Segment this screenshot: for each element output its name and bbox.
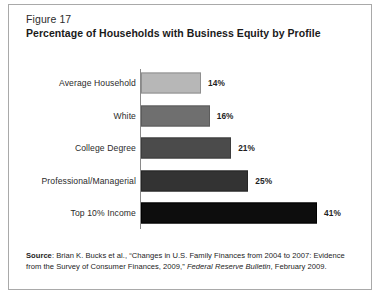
source-publication: Federal Reserve Bulletin <box>187 262 271 271</box>
figure-number: Figure 17 <box>26 13 71 25</box>
figure-frame: Figure 17 Percentage of Households with … <box>8 4 372 290</box>
bar-chart: Average Household14%White16%College Degr… <box>9 49 371 243</box>
bar-category-label: Top 10% Income <box>71 208 136 218</box>
bar-value-label: 41% <box>324 208 341 218</box>
bar-row: Top 10% Income41% <box>9 197 371 229</box>
bar-value-label: 25% <box>255 176 272 186</box>
bar <box>141 73 201 94</box>
bar-row: White16% <box>9 100 371 132</box>
bar-row: Average Household14% <box>9 67 371 99</box>
source-label: Source <box>26 251 52 260</box>
figure-title: Percentage of Households with Business E… <box>26 27 321 39</box>
bar-row: College Degree21% <box>9 132 371 164</box>
bar <box>141 105 210 126</box>
bar-row: Professional/Managerial25% <box>9 165 371 197</box>
source-note: Source: Brian K. Bucks et al., “Changes … <box>26 250 362 273</box>
bar-value-label: 21% <box>238 143 255 153</box>
bar <box>141 170 248 191</box>
bar-value-label: 14% <box>208 78 225 88</box>
bar <box>141 203 317 224</box>
source-text-part2: , February 2009. <box>271 262 327 271</box>
bar-category-label: College Degree <box>75 143 136 153</box>
bar-category-label: Professional/Managerial <box>42 176 137 186</box>
bar-value-label: 16% <box>217 111 234 121</box>
bar-category-label: Average Household <box>59 78 136 88</box>
bar-category-label: White <box>114 111 136 121</box>
bar <box>141 138 231 159</box>
